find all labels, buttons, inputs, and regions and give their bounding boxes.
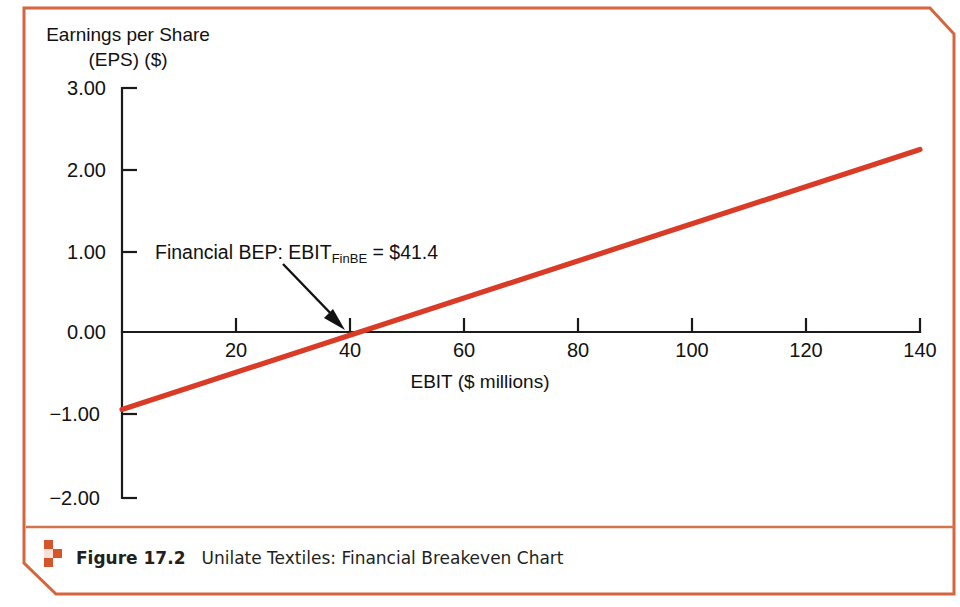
bep-annotation-subscript: FinBE bbox=[332, 251, 367, 266]
financial-bep-annotation: Financial BEP: EBITFinBE = $41.4 bbox=[155, 241, 438, 264]
y-axis-title-line1: Earnings per Share bbox=[46, 24, 210, 45]
y-tick-label-1: 1.00 bbox=[16, 241, 106, 264]
x-axis-title: EBIT ($ millions) bbox=[0, 371, 960, 393]
y-tick-label-0: 0.00 bbox=[16, 321, 106, 344]
bep-annotation-suffix: = $41.4 bbox=[367, 241, 438, 263]
bep-annotation-prefix: Financial BEP: EBIT bbox=[155, 241, 332, 263]
bep-arrow-icon bbox=[283, 264, 345, 330]
x-tick-label-40: 40 bbox=[320, 339, 380, 362]
y-tick-label-neg2: −2.00 bbox=[10, 487, 100, 510]
x-tick-label-80: 80 bbox=[548, 339, 608, 362]
figure-caption: Figure 17.2Unilate Textiles: Financial B… bbox=[76, 548, 564, 568]
x-tick-label-60: 60 bbox=[434, 339, 494, 362]
y-tick-label-neg1: −1.00 bbox=[10, 403, 100, 426]
chart-plot bbox=[0, 0, 960, 607]
figure-container: Earnings per Share (EPS) ($) 3.00 2.00 1… bbox=[0, 0, 960, 607]
y-axis-title: Earnings per Share (EPS) ($) bbox=[28, 22, 228, 72]
x-tick-label-20: 20 bbox=[206, 339, 266, 362]
y-tick-label-2: 2.00 bbox=[16, 159, 106, 182]
y-tick-label-3: 3.00 bbox=[16, 77, 106, 100]
x-tick-label-120: 120 bbox=[776, 339, 836, 362]
x-tick-label-140: 140 bbox=[890, 339, 950, 362]
figure-caption-label: Figure 17.2 bbox=[76, 548, 186, 568]
x-tick-label-100: 100 bbox=[662, 339, 722, 362]
figure-caption-title: Unilate Textiles: Financial Breakeven Ch… bbox=[202, 548, 564, 568]
y-axis-ticks bbox=[122, 88, 137, 498]
y-axis-title-line2: (EPS) ($) bbox=[28, 47, 228, 72]
figure-bullet-icon bbox=[38, 540, 64, 570]
